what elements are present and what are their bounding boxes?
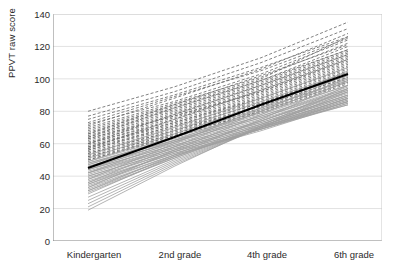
y-tick-label: 140 [22,9,50,20]
plot-area [53,14,382,241]
y-axis-tick-labels: 020406080100120140 [18,0,50,250]
x-tick-label: 6th grade [334,249,374,260]
x-tick-label: 2nd grade [159,249,202,260]
y-tick-label: 120 [22,41,50,52]
x-tick-label: Kindergarten [67,249,121,260]
trajectory-line [88,55,348,144]
y-tick-label: 60 [22,138,50,149]
ppvt-growth-chart: PPVT raw score 020406080100120140 Kinder… [0,0,402,280]
y-tick-label: 40 [22,171,50,182]
y-tick-label: 80 [22,106,50,117]
y-tick-label: 20 [22,203,50,214]
trajectory-line [88,95,348,173]
trajectory-lines-svg [53,14,382,241]
y-axis-label: PPVT raw score [6,0,17,78]
x-tick-label: 4th grade [247,249,287,260]
y-tick-label: 0 [22,236,50,247]
y-tick-label: 100 [22,73,50,84]
